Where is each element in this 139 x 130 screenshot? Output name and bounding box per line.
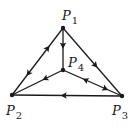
node-dot-p1 xyxy=(61,26,65,30)
node-label-letter: P xyxy=(6,103,15,118)
node-dot-p3 xyxy=(120,94,124,98)
arrowhead-icon xyxy=(27,69,33,76)
node-dot-p4 xyxy=(61,68,65,72)
node-label-subscript: 1 xyxy=(72,15,78,26)
node-label-letter: P xyxy=(62,8,71,23)
graph-diagram: P1 P2 P3 P4 xyxy=(0,0,139,130)
node-label-letter: P xyxy=(68,55,77,70)
edge-p1-p2 xyxy=(12,28,63,95)
node-dot-p2 xyxy=(10,93,14,97)
node-label-p4: P4 xyxy=(68,56,84,73)
node-label-subscript: 4 xyxy=(78,62,84,73)
node-label-p3: P3 xyxy=(112,104,128,121)
edge-p4-p3 xyxy=(63,70,122,96)
node-label-letter: P xyxy=(112,103,121,118)
node-label-subscript: 2 xyxy=(16,110,22,121)
node-label-p2: P2 xyxy=(6,104,22,121)
arrowhead-icon xyxy=(43,46,49,53)
node-label-subscript: 3 xyxy=(122,110,128,121)
node-label-p1: P1 xyxy=(62,9,78,26)
edge-p3-p2 xyxy=(12,95,122,96)
edge-p4-p2 xyxy=(12,70,63,95)
